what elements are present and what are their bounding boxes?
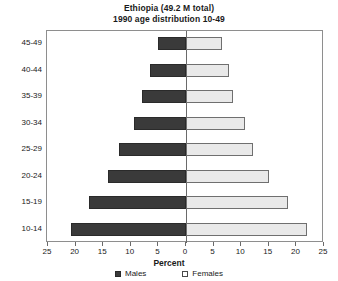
x-axis-tick-label: 20 [280,246,310,257]
y-axis-tick-label: 10-14 [0,224,42,234]
legend-item-males: Males [115,269,146,279]
chart-title-line-2: 1990 age distribution 10-49 [0,14,338,25]
bar-male [71,223,186,236]
chart-title-line-1: Ethiopia (49.2 M total) [0,3,338,14]
bar-female [186,37,222,50]
bar-row [47,190,324,216]
x-axis-title: Percent [0,258,338,269]
legend-swatch-males-icon [115,271,121,277]
bar-female [186,64,229,77]
x-axis-tick-label: 10 [115,246,145,257]
x-axis-tick-label: 5 [198,246,228,257]
bar-male [108,170,186,183]
y-axis-tick-label: 30-34 [0,118,42,128]
bar-male [142,90,186,103]
bar-row [47,217,324,243]
bar-row [47,31,324,57]
legend-label-males: Males [125,269,146,279]
y-axis-tick-label: 45-49 [0,38,42,48]
y-axis-labels: 45-4940-4435-3930-3425-2920-2415-1910-14 [0,30,42,242]
x-axis-tick-label: 5 [142,246,172,257]
bar-male [119,143,186,156]
bar-male [150,64,186,77]
y-axis-tick-label: 15-19 [0,197,42,207]
x-axis-tick-label: 15 [87,246,117,257]
x-axis-tick-label: 25 [32,246,62,257]
bar-male [89,196,186,209]
x-axis-tick-label: 15 [253,246,283,257]
bar-row [47,84,324,110]
bar-female [186,90,233,103]
plot-area [46,30,323,242]
x-axis-tick-label: 0 [170,246,200,257]
x-axis-tick-label: 25 [308,246,338,257]
bar-male [134,117,186,130]
legend-label-females: Females [192,269,223,279]
y-axis-tick-label: 35-39 [0,91,42,101]
x-axis-labels: 2520151050510152025 [0,246,338,258]
bar-row [47,164,324,190]
y-axis-tick-label: 40-44 [0,65,42,75]
legend-swatch-females-icon [182,271,188,277]
bar-row [47,58,324,84]
bar-row [47,111,324,137]
x-axis-tick-label: 10 [225,246,255,257]
y-axis-tick-label: 20-24 [0,171,42,181]
bar-male [158,37,186,50]
chart-legend: Males Females [0,269,338,279]
bar-female [186,170,269,183]
x-axis-tick-label: 20 [60,246,90,257]
legend-item-females: Females [182,269,223,279]
bar-female [186,143,253,156]
y-axis-tick-label: 25-29 [0,144,42,154]
bar-female [186,223,307,236]
bar-row [47,137,324,163]
chart-title: Ethiopia (49.2 M total) 1990 age distrib… [0,3,338,25]
bar-female [186,117,245,130]
bar-female [186,196,288,209]
